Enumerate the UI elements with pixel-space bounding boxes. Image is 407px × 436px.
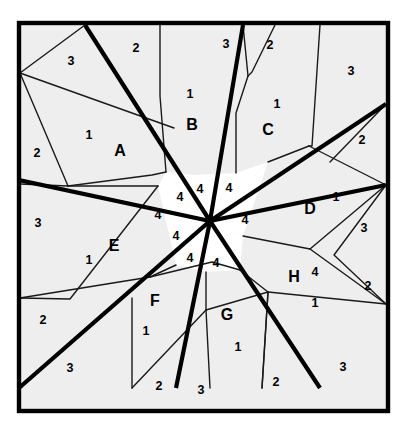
- number-label-3: 2: [267, 38, 274, 52]
- number-label-17: 2: [40, 313, 47, 327]
- region-label-e: E: [109, 237, 120, 254]
- number-label-30: 4: [187, 251, 194, 265]
- number-label-2: 3: [223, 37, 230, 51]
- tessellation-diagram: ABCDEFGH 3232311122313142121132323444444…: [0, 0, 407, 436]
- region-label-g: G: [221, 306, 233, 323]
- number-label-12: 3: [361, 221, 368, 235]
- number-label-11: 1: [333, 190, 340, 204]
- number-label-13: 1: [86, 253, 93, 267]
- number-label-19: 1: [235, 340, 242, 354]
- number-label-7: 1: [86, 128, 93, 142]
- number-label-21: 2: [156, 379, 163, 393]
- number-label-4: 3: [348, 64, 355, 78]
- number-label-18: 1: [143, 324, 150, 338]
- region-label-a: A: [114, 142, 126, 159]
- number-label-16: 1: [312, 296, 319, 310]
- number-label-27: 4: [226, 181, 233, 195]
- number-label-9: 2: [359, 133, 366, 147]
- diagram-body: [19, 23, 388, 411]
- number-label-15: 2: [365, 279, 372, 293]
- number-label-5: 1: [187, 87, 194, 101]
- region-label-c: C: [262, 121, 274, 138]
- number-label-6: 1: [274, 97, 281, 111]
- number-label-10: 3: [35, 216, 42, 230]
- tessellation-figure: ABCDEFGH 3232311122313142121132323444444…: [0, 0, 407, 436]
- number-label-23: 2: [273, 375, 280, 389]
- number-label-20: 3: [67, 361, 74, 375]
- region-label-f: F: [150, 292, 160, 309]
- number-label-28: 4: [242, 213, 249, 227]
- number-label-8: 2: [34, 146, 41, 160]
- number-label-32: 4: [155, 208, 162, 222]
- number-label-22: 3: [198, 383, 205, 397]
- number-label-31: 4: [213, 256, 220, 270]
- number-label-0: 3: [68, 54, 75, 68]
- number-label-29: 4: [173, 229, 180, 243]
- number-label-25: 4: [177, 190, 184, 204]
- region-label-d: D: [304, 200, 316, 217]
- number-label-24: 3: [340, 360, 347, 374]
- number-label-14: 4: [312, 265, 319, 279]
- number-label-26: 4: [197, 182, 204, 196]
- region-label-h: H: [288, 268, 300, 285]
- number-label-1: 2: [133, 41, 140, 55]
- region-label-b: B: [186, 116, 198, 133]
